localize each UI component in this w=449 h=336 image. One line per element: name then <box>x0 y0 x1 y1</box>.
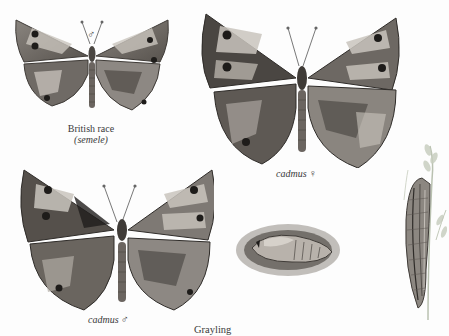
butterfly-cadmus-female <box>196 8 406 168</box>
butterfly-illustration-icon <box>14 164 214 314</box>
butterfly-british-race-male: ♂ <box>12 14 172 114</box>
sex-symbol-male: ♂ <box>121 313 129 325</box>
pupa-illustration <box>234 220 344 280</box>
sex-symbol-female: ♀ <box>309 167 317 179</box>
caption-british-race-line1: British race <box>56 123 126 134</box>
plate-title: Grayling <box>194 324 231 335</box>
caption-semele: (semele) <box>56 134 126 145</box>
sex-symbol-male: ♂ <box>87 29 95 40</box>
caption-cadmus-female: cadmus♀ <box>276 168 317 179</box>
caterpillar-icon <box>392 140 447 330</box>
caption-cadmus-female-text: cadmus <box>276 168 307 179</box>
caption-cadmus-male: cadmus♂ <box>88 314 129 325</box>
illustration-plate: ♂ British race (semele) <box>0 0 449 336</box>
butterfly-illustration-icon <box>196 8 406 168</box>
caption-british-race: British race (semele) <box>56 123 126 145</box>
larva-on-grass-illustration <box>392 140 447 330</box>
caption-british-race-line2: (semele) <box>74 134 108 145</box>
caption-cadmus-male-text: cadmus <box>88 314 119 325</box>
pupa-icon <box>234 220 344 280</box>
butterfly-cadmus-male <box>14 164 214 314</box>
